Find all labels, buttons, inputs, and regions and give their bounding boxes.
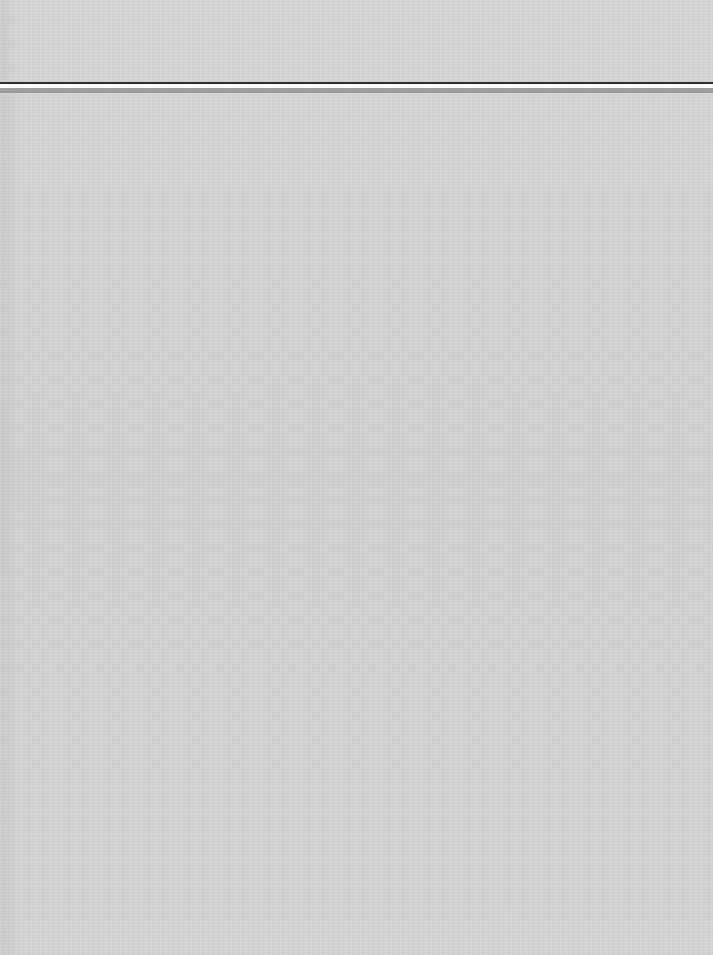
- header-double-rule: [0, 82, 713, 93]
- rule-gray-line: [0, 88, 713, 93]
- paper-texture: [0, 0, 713, 955]
- scanned-page: [0, 0, 713, 955]
